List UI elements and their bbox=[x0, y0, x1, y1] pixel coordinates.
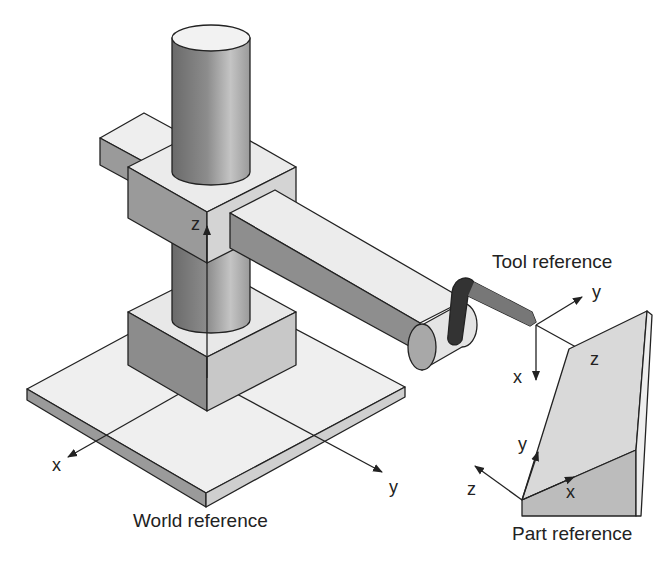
part-y-label: y bbox=[518, 434, 527, 455]
world-z-label: z bbox=[191, 214, 200, 235]
world-x-label: x bbox=[52, 455, 61, 476]
upper-column bbox=[172, 25, 250, 185]
part-z-label: z bbox=[467, 479, 476, 500]
tool-reference-title: Tool reference bbox=[492, 251, 612, 273]
robot-diagram bbox=[0, 0, 672, 561]
world-reference-title: World reference bbox=[133, 510, 268, 532]
part-wedge bbox=[522, 311, 652, 516]
part-x-label: x bbox=[566, 482, 575, 503]
world-y-label: y bbox=[389, 477, 398, 498]
part-reference-title: Part reference bbox=[512, 523, 632, 545]
tool-y-label: y bbox=[592, 282, 601, 303]
tool-gripper bbox=[448, 278, 536, 345]
tool-z-label: z bbox=[590, 349, 599, 370]
tool-x-label: x bbox=[513, 367, 522, 388]
